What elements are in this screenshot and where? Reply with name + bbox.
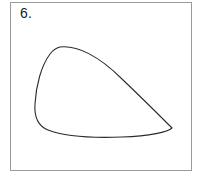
figure-number-label: 6.: [20, 6, 32, 20]
figure-frame: [10, 2, 192, 171]
figure-container: 6.: [0, 0, 202, 181]
